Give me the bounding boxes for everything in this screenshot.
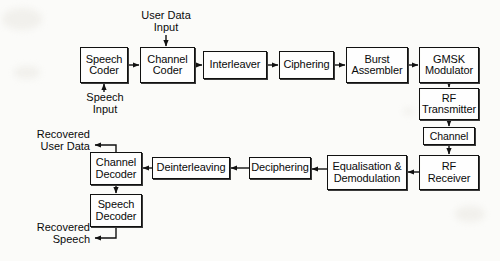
node-equalisation-demodulation[interactable]: Equalisation & Demodulation — [327, 155, 407, 190]
node-interleaver[interactable]: Interleaver — [203, 51, 267, 79]
node-channel[interactable]: Channel — [423, 127, 475, 145]
node-rf-transmitter[interactable]: RF Transmitter — [419, 88, 479, 120]
node-channel-coder[interactable]: Channel Coder — [140, 47, 195, 83]
node-deinterleaving[interactable]: Deinterleaving — [152, 157, 230, 179]
node-speech-decoder[interactable]: Speech Decoder — [90, 194, 142, 227]
diagram-canvas: Speech Coder Channel Coder Interleaver C… — [0, 0, 500, 261]
wire-speech-decoder-to-recovered-speech — [95, 227, 116, 238]
label-speech-input: Speech Input — [76, 91, 134, 116]
label-recovered-speech: Recovered Speech — [8, 221, 90, 246]
wire-channel-decoder-to-recovered-user-data — [95, 145, 116, 152]
node-speech-coder[interactable]: Speech Coder — [80, 47, 128, 83]
node-rf-receiver[interactable]: RF Receiver — [419, 155, 479, 190]
node-deciphering[interactable]: Deciphering — [249, 157, 311, 179]
node-burst-assembler[interactable]: Burst Assembler — [346, 47, 408, 83]
label-user-data-input: User Data Input — [127, 9, 205, 34]
node-ciphering[interactable]: Ciphering — [279, 51, 334, 79]
node-channel-decoder[interactable]: Channel Decoder — [90, 152, 142, 185]
label-recovered-user-data: Recovered User Data — [8, 128, 90, 153]
node-gmsk-modulator[interactable]: GMSK Modulator — [419, 47, 479, 83]
